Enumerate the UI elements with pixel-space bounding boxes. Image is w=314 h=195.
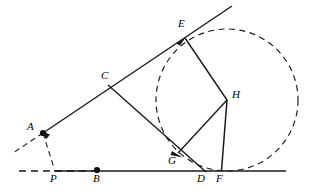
point-label-D: D bbox=[197, 173, 205, 184]
point-label-E: E bbox=[178, 18, 185, 29]
point-label-P: P bbox=[50, 173, 57, 184]
point-label-F: F bbox=[216, 173, 223, 184]
ray-A-C-E-extended bbox=[43, 6, 232, 133]
point-label-B: B bbox=[93, 173, 100, 184]
segment-C-G-D bbox=[108, 85, 206, 172]
diagram-canvas bbox=[0, 0, 314, 195]
point-label-H: H bbox=[232, 89, 240, 100]
dashed-segment-A-P bbox=[43, 133, 54, 168]
point-marker-A bbox=[40, 130, 46, 136]
arrowhead-at-E-icon bbox=[176, 37, 186, 46]
point-label-A: A bbox=[27, 121, 34, 132]
dashed-ray-left-of-A bbox=[13, 133, 43, 153]
point-label-G: G bbox=[168, 155, 176, 166]
geometry-diagram: A P B C E G H D F bbox=[0, 0, 314, 195]
segment-G-H bbox=[178, 100, 227, 153]
point-label-C: C bbox=[101, 70, 108, 81]
segment-H-E bbox=[185, 38, 227, 100]
segment-H-F-radius bbox=[222, 100, 228, 171]
